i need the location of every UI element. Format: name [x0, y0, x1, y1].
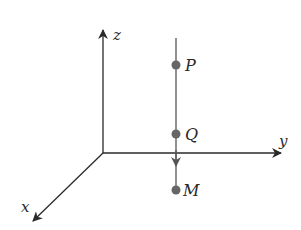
point-q-label: Q [185, 125, 198, 144]
y-axis-label: y [278, 132, 288, 150]
point-m-label: M [182, 181, 200, 200]
point-p [172, 61, 181, 70]
point-p-label: P [184, 56, 196, 75]
point-q [172, 130, 181, 139]
z-axis-label: z [112, 26, 121, 44]
diagram-canvas: z y x P Q M [0, 0, 301, 230]
x-axis [33, 153, 103, 221]
point-m [172, 186, 181, 195]
x-axis-label: x [21, 198, 30, 216]
